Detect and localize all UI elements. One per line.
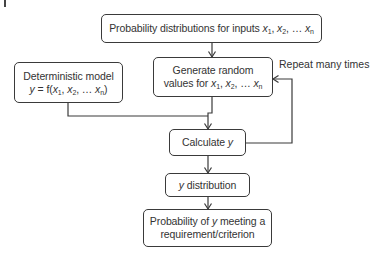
text: values for: [164, 77, 211, 89]
text: Calculate: [182, 136, 228, 148]
node-generate-line2: values for x1, x2, … xn: [164, 77, 263, 90]
node-calculate-text: Calculate y: [182, 136, 233, 149]
node-input-distributions: Probability distributions for inputs x1,…: [101, 14, 322, 43]
node-input-distributions-text: Probability distributions for inputs x1,…: [109, 22, 314, 35]
text: ): [104, 83, 107, 95]
text: meeting a: [217, 215, 265, 227]
sep: , …: [235, 77, 254, 89]
text: Probability distributions for inputs: [109, 22, 262, 34]
node-calculate-y: Calculate y: [169, 129, 246, 156]
edge-model-calculate: [68, 103, 208, 116]
text: distribution: [184, 179, 236, 191]
node-generate-line1: Generate random: [173, 64, 254, 77]
node-deterministic-model: Deterministic model y = f(x1, x2, … xn): [14, 62, 123, 103]
text: = f(: [35, 83, 53, 95]
sep: , …: [286, 22, 305, 34]
node-probability-requirement: Probability of y meeting a requirement/c…: [143, 209, 272, 247]
node-model-line1: Deterministic model: [23, 70, 113, 83]
node-generate-random: Generate random values for x1, x2, … xn: [153, 57, 273, 97]
node-probability-line2: requirement/criterion: [160, 228, 254, 241]
node-probability-line1: Probability of y meeting a: [150, 215, 265, 228]
node-y-distribution: y distribution: [165, 173, 250, 197]
sep: , …: [76, 83, 95, 95]
sub: n: [259, 83, 263, 90]
sub: n: [310, 28, 314, 35]
node-model-line2: y = f(x1, x2, … xn): [30, 83, 108, 96]
loop-label: Repeat many times: [279, 58, 369, 70]
node-distribution-text: y distribution: [179, 179, 237, 192]
var-y: y: [228, 136, 233, 148]
text: Probability of: [150, 215, 212, 227]
